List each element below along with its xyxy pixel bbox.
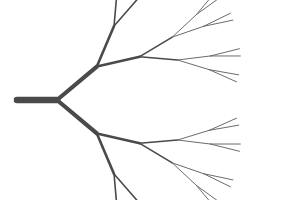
tree-diagram-canvas bbox=[0, 0, 295, 200]
branching-tree-svg bbox=[0, 0, 295, 200]
